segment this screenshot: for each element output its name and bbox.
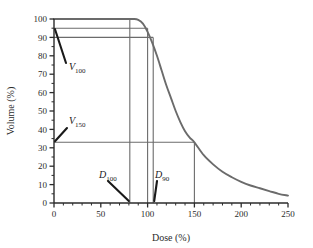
y-tick-label-80: 80 xyxy=(38,51,48,61)
dvh-curve xyxy=(54,19,288,196)
d100-label: D100 xyxy=(98,169,117,183)
v100-label: V100 xyxy=(69,61,86,75)
y-tick-label-40: 40 xyxy=(38,125,48,135)
dose-volume-histogram-chart: 0501001502002500102030405060708090100Dos… xyxy=(0,0,313,248)
y-tick-label-70: 70 xyxy=(38,69,48,79)
y-axis-title: Volume (%) xyxy=(5,87,17,135)
x-tick-label-100: 100 xyxy=(141,209,155,219)
y-tick-label-50: 50 xyxy=(38,106,48,116)
y-tick-label-10: 10 xyxy=(38,180,48,190)
y-tick-label-20: 20 xyxy=(38,161,48,171)
x-tick-label-0: 0 xyxy=(52,209,57,219)
x-tick-label-250: 250 xyxy=(281,209,295,219)
y-tick-label-90: 90 xyxy=(38,33,48,43)
y-tick-label-100: 100 xyxy=(34,14,48,24)
y-tick-label-30: 30 xyxy=(38,143,48,153)
v150-label: V150 xyxy=(69,115,86,129)
y-tick-label-0: 0 xyxy=(43,198,48,208)
v100-leader xyxy=(55,29,66,63)
chart-figure: 0501001502002500102030405060708090100Dos… xyxy=(0,0,313,248)
d90-leader xyxy=(154,181,157,201)
chart-canvas: 0501001502002500102030405060708090100Dos… xyxy=(5,14,295,244)
d100-leader xyxy=(108,181,129,201)
x-axis-title: Dose (%) xyxy=(152,232,190,244)
x-tick-label-150: 150 xyxy=(188,209,202,219)
y-tick-label-60: 60 xyxy=(38,88,48,98)
v150-leader xyxy=(55,128,67,141)
x-tick-label-50: 50 xyxy=(96,209,106,219)
x-tick-label-200: 200 xyxy=(234,209,248,219)
